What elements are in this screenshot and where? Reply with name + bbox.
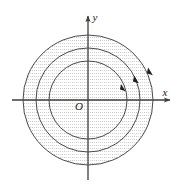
- concentric-circles-diagram: x y O: [0, 0, 178, 189]
- figure-container: x y O: [0, 0, 178, 189]
- y-axis-label: y: [92, 11, 98, 23]
- origin-label: O: [75, 100, 83, 112]
- x-axis-label: x: [162, 86, 168, 98]
